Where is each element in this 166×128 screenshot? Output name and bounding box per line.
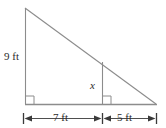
dimension-arrow-right-end bbox=[148, 116, 156, 122]
dimension-arrow-left-end bbox=[94, 116, 102, 122]
dimension-arrow-right-start bbox=[104, 116, 112, 122]
label-left-leg: 9 ft bbox=[4, 51, 19, 62]
label-base-right-segment: 5 ft bbox=[117, 112, 132, 123]
dimension-arrow-left-start bbox=[25, 116, 33, 122]
right-angle-mark-left bbox=[26, 96, 35, 105]
right-angle-mark-inner bbox=[103, 96, 112, 105]
label-base-left-segment: 7 ft bbox=[53, 112, 68, 123]
label-inner-height: x bbox=[90, 80, 95, 91]
triangle-diagram-svg bbox=[0, 0, 166, 128]
geometry-figure: 9 ft x 7 ft 5 ft bbox=[0, 0, 166, 128]
